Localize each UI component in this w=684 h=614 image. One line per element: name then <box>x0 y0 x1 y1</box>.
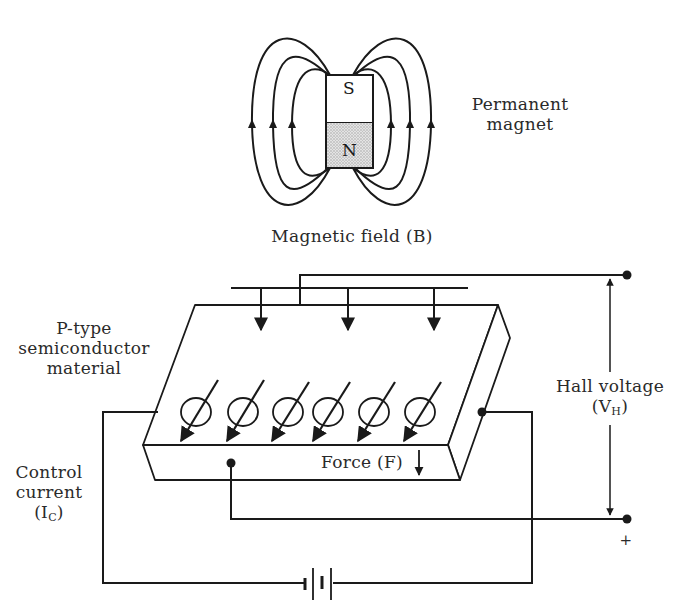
positive-polarity-label: + <box>619 530 633 550</box>
slab-front-face <box>143 445 460 480</box>
permanent-magnet-label: Permanent magnet <box>466 94 574 134</box>
north-pole-label: N <box>342 140 357 160</box>
hall-effect-diagram <box>0 0 684 614</box>
permanent-magnet <box>248 39 435 205</box>
magnetic-field-label: Magnetic field (B) <box>262 226 442 246</box>
contact-front-icon <box>227 459 236 468</box>
terminal-top-icon <box>623 271 632 280</box>
force-label: Force (F) <box>312 452 412 472</box>
battery-icon <box>305 568 331 600</box>
control-current-label: Control current (IC) <box>4 462 94 528</box>
hall-voltage-label: Hall voltage (VH) <box>551 376 669 422</box>
terminal-bottom-icon <box>623 515 632 524</box>
south-pole-label: S <box>343 78 355 98</box>
hall-top-wire <box>300 275 627 305</box>
contact-right-icon <box>478 408 487 417</box>
semiconductor-label: P-type semiconductor material <box>14 318 154 378</box>
